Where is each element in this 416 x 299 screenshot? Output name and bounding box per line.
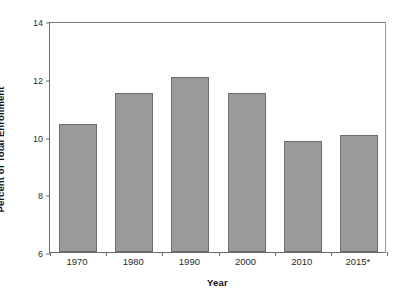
- x-axis-tick-mark: [331, 252, 332, 256]
- x-axis-tick-label: 2015*: [330, 257, 386, 267]
- x-axis-title: Year: [49, 277, 386, 288]
- y-axis-title: Percent of Total Enrollment: [0, 0, 22, 299]
- x-axis-tick-label: 1970: [49, 257, 105, 267]
- bar: [115, 93, 153, 252]
- x-axis-tick-mark: [162, 252, 163, 256]
- bar: [171, 77, 209, 252]
- y-axis-title-label: Percent of Total Enrollment: [0, 86, 6, 212]
- y-axis-tick-mark: [46, 138, 50, 139]
- plot-area: 68101214: [49, 22, 386, 253]
- x-axis-tick-mark: [50, 252, 51, 256]
- x-axis-tick-label: 2010: [274, 257, 330, 267]
- y-axis-tick-mark: [46, 23, 50, 24]
- bar: [340, 135, 378, 252]
- x-axis-tick-mark: [275, 252, 276, 256]
- bar-chart-figure: Percent of Total Enrollment 68101214 197…: [0, 0, 416, 299]
- x-axis-tick-mark: [387, 252, 388, 256]
- bar: [59, 124, 97, 252]
- bar: [284, 141, 322, 252]
- bar: [228, 93, 266, 252]
- x-axis-tick-label: 1990: [161, 257, 217, 267]
- y-axis-tick-mark: [46, 80, 50, 81]
- x-axis-tick-mark: [219, 252, 220, 256]
- y-axis-tick-mark: [46, 196, 50, 197]
- x-axis-tick-label: 2000: [218, 257, 274, 267]
- x-axis-tick-label: 1980: [105, 257, 161, 267]
- x-axis-tick-mark: [106, 252, 107, 256]
